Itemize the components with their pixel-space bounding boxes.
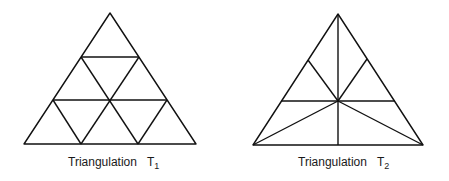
caption-t1: TriangulationT1: [68, 155, 159, 171]
triangulation-t1: [24, 13, 196, 144]
triangulation-t2: [253, 14, 423, 145]
t2-upper-left-segment: [308, 60, 338, 101]
caption-t2: TriangulationT2: [298, 155, 389, 171]
caption-t1-symbol: T1: [147, 155, 159, 169]
caption-t1-subscript: 1: [154, 161, 159, 171]
t2-lower-right-segment: [338, 101, 423, 145]
diagram-canvas: [0, 0, 449, 181]
t1-outer-triangle: [24, 13, 196, 144]
caption-t2-text: Triangulation: [298, 155, 367, 169]
t1-diagonal-line: [53, 100, 81, 144]
t2-lower-left-segment: [253, 101, 338, 145]
caption-t1-text: Triangulation: [68, 155, 137, 169]
t2-upper-right-segment: [338, 59, 367, 101]
t1-diagonal-line: [138, 100, 167, 144]
caption-t2-subscript: 2: [384, 161, 389, 171]
caption-t2-symbol: T2: [377, 155, 389, 169]
